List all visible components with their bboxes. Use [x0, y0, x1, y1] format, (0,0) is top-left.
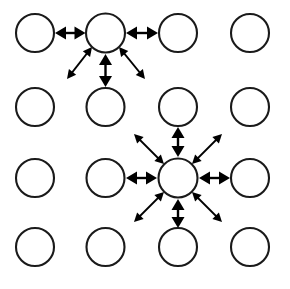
- diagram-canvas: [0, 0, 290, 289]
- grid-node-r2c4[interactable]: [231, 88, 269, 126]
- grid-node-r3c1[interactable]: [16, 159, 54, 197]
- grid-node-r1c3[interactable]: [159, 14, 197, 52]
- grid-node-r3c3-hub[interactable]: [159, 159, 198, 198]
- grid-node-r2c1[interactable]: [16, 88, 54, 126]
- grid-node-r4c4[interactable]: [231, 228, 269, 266]
- grid-node-r4c3[interactable]: [159, 228, 197, 266]
- grid-node-r1c2-hub[interactable]: [86, 14, 125, 53]
- grid-node-r4c1[interactable]: [16, 228, 54, 266]
- grid-node-r2c2[interactable]: [87, 88, 125, 126]
- grid-node-r1c1[interactable]: [16, 14, 54, 52]
- grid-node-r3c4[interactable]: [231, 159, 269, 197]
- grid-node-r4c2[interactable]: [87, 228, 125, 266]
- grid-node-r2c3[interactable]: [159, 88, 197, 126]
- grid-neighborhood-diagram: [0, 0, 290, 289]
- grid-node-r1c4[interactable]: [231, 14, 269, 52]
- grid-node-r3c2[interactable]: [87, 159, 125, 197]
